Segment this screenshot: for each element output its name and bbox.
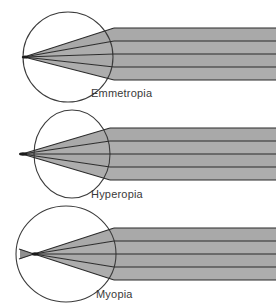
myopia-focal-point: [32, 252, 39, 255]
panel-hyperopia: Hyperopia: [0, 106, 276, 206]
myopia-optics-svg: [0, 204, 276, 306]
panel-label-myopia: Myopia: [96, 289, 133, 300]
panel-myopia: Myopia: [0, 204, 276, 306]
panel-label-hyperopia: Hyperopia: [91, 189, 143, 200]
emmetropia-focal-point: [22, 55, 28, 58]
refractive-states-diagram: Emmetropia: [0, 0, 276, 306]
panel-emmetropia: Emmetropia: [0, 0, 276, 108]
hyperopia-focal-point: [19, 152, 27, 155]
panel-label-emmetropia: Emmetropia: [91, 88, 152, 99]
